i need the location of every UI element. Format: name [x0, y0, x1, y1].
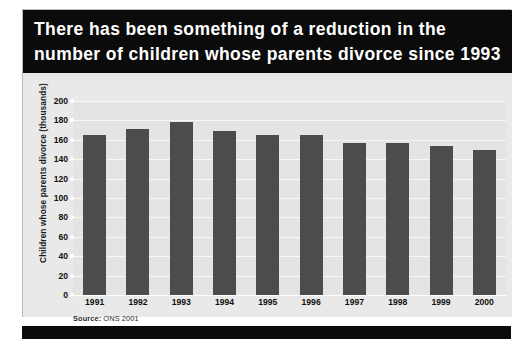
bar-slot [376, 101, 419, 295]
bar-slot [246, 101, 289, 295]
bar-1996 [300, 135, 323, 295]
y-tick-label: 160 [28, 135, 68, 145]
source-prefix: Source: [73, 314, 101, 323]
y-tick-label: 60 [28, 232, 68, 242]
x-tick-label: 1999 [419, 297, 462, 307]
bar-1994 [213, 131, 236, 295]
bar-slot [116, 101, 159, 295]
y-tick-label: 80 [28, 212, 68, 222]
x-tick-label: 1992 [116, 297, 159, 307]
y-tick-label: 0 [28, 290, 68, 300]
bar-slot [333, 101, 376, 295]
bar-1999 [430, 146, 453, 295]
bar-slot [73, 101, 116, 295]
y-tick-label: 120 [28, 174, 68, 184]
y-tick-label: 200 [28, 96, 68, 106]
chart-title-banner: There has been something of a reduction … [23, 10, 512, 73]
footer-strip [22, 326, 511, 339]
x-tick-label: 1994 [203, 297, 246, 307]
source-note: Source: ONS 2001 [73, 314, 139, 323]
bar-slot [463, 101, 506, 295]
figure-panel: There has been something of a reduction … [22, 9, 511, 317]
bar-series [73, 101, 506, 295]
x-axis-labels: 1991199219931994199519961997199819992000 [73, 297, 506, 307]
x-tick-label: 1995 [246, 297, 289, 307]
y-tick-label: 140 [28, 154, 68, 164]
x-tick-label: 1991 [73, 297, 116, 307]
bar-slot [289, 101, 332, 295]
y-tick-label: 100 [28, 193, 68, 203]
bar-1992 [126, 129, 149, 295]
gridline [73, 295, 506, 296]
bar-1991 [83, 135, 106, 295]
x-tick-label: 2000 [463, 297, 506, 307]
y-tick-label: 40 [28, 251, 68, 261]
x-tick-label: 1998 [376, 297, 419, 307]
bar-1998 [386, 143, 409, 295]
chart-title-line-2: number of children whose parents divorce… [34, 42, 504, 67]
bar-1995 [256, 135, 279, 295]
bar-slot [160, 101, 203, 295]
bar-slot [203, 101, 246, 295]
chart-title-line-1: There has been something of a reduction … [34, 17, 504, 42]
chart-body: Children whose parents divorce (thousand… [23, 73, 512, 317]
x-tick-label: 1996 [289, 297, 332, 307]
bar-1997 [343, 143, 366, 295]
bar-2000 [473, 150, 496, 296]
y-tick-label: 20 [28, 271, 68, 281]
y-tick-label: 180 [28, 115, 68, 125]
x-tick-label: 1993 [160, 297, 203, 307]
source-text: ONS 2001 [101, 314, 138, 323]
bar-1993 [170, 122, 193, 295]
plot-area: 020406080100120140160180200 [73, 101, 506, 295]
x-tick-label: 1997 [333, 297, 376, 307]
bar-slot [419, 101, 462, 295]
